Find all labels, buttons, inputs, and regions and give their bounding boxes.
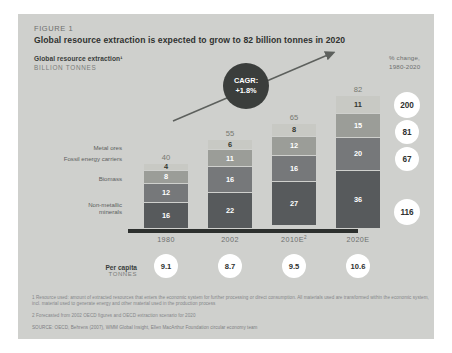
bar-2020E: 11152036 [336, 96, 380, 229]
bar-segment-biomass: 20 [336, 138, 380, 170]
bar-segment-non-metallic-minerals: 36 [336, 171, 380, 229]
x-axis-line [128, 229, 358, 233]
pct-change-circle-fossil-energy-carriers: 81 [395, 120, 419, 144]
per-capita-units: TONNES [75, 271, 137, 277]
series-label-biomass: Biomass [36, 175, 122, 182]
bar-segment-metal-ores: 11 [336, 96, 380, 114]
source-note: SOURCE: OECD, Behrens (2007), WMM Global… [32, 325, 432, 331]
bar-segment-metal-ores: 6 [208, 140, 252, 150]
bar-segment-biomass: 12 [144, 184, 188, 203]
x-tick-1980: 1980 [136, 235, 196, 244]
bar-segment-fossil-energy-carriers: 15 [336, 114, 380, 138]
per-capita-circle-1980: 9.1 [154, 254, 178, 278]
per-capita-circle-2002: 8.7 [218, 254, 242, 278]
x-tick-2002: 2002 [200, 235, 260, 244]
bar-segment-non-metallic-minerals: 27 [272, 182, 316, 226]
per-capita-label: Per capita TONNES [75, 264, 137, 277]
bar-1980: 481216 [144, 164, 188, 229]
x-tick-2020E: 2020E [328, 235, 388, 244]
per-capita-circle-2020E: 10.6 [346, 254, 370, 278]
bar-segment-biomass: 16 [272, 156, 316, 182]
bar-total-2010E: 65 [272, 113, 316, 122]
cagr-label: CAGR: [234, 76, 258, 86]
series-label-metal-ores: Metal ores [36, 144, 122, 151]
bar-2010E: 8121627 [272, 124, 316, 229]
chart-y-axis-units: BILLION TONNES [34, 64, 96, 71]
cagr-bubble: CAGR: +1.8% [223, 63, 269, 109]
pct-change-circle-metal-ores: 200 [394, 92, 420, 118]
bar-segment-non-metallic-minerals: 22 [208, 193, 252, 229]
chart-title: Global resource extraction¹ [34, 55, 122, 62]
per-capita-label-text: Per capita [75, 264, 137, 271]
bar-total-2002: 55 [208, 129, 252, 138]
footnote-1: 1 Resource used: amount of extracted res… [32, 295, 432, 307]
figure-panel: FIGURE 1 Global resource extraction is e… [18, 14, 434, 339]
pct-change-header-line1: % change, [389, 54, 452, 63]
footnote-2: 2 Forecasted from 2002 OECD figures and … [32, 313, 432, 319]
series-label-non-metallic-minerals: Non-metallicminerals [36, 201, 122, 215]
bar-segment-biomass: 16 [208, 167, 252, 193]
per-capita-circle-2010E: 9.5 [282, 254, 306, 278]
bar-2002: 6111622 [208, 140, 252, 229]
pct-change-circle-biomass: 67 [395, 147, 419, 171]
series-label-fossil-energy-carriers: Fossil energy carriers [36, 155, 122, 162]
pct-change-header-line2: 1980-2020 [389, 63, 452, 72]
bar-segment-fossil-energy-carriers: 11 [208, 150, 252, 168]
pct-change-circle-non-metallic-minerals: 116 [394, 199, 420, 225]
bar-segment-fossil-energy-carriers: 8 [144, 171, 188, 184]
bar-segment-non-metallic-minerals: 16 [144, 203, 188, 229]
bar-segment-fossil-energy-carriers: 12 [272, 137, 316, 156]
bar-total-2020E: 82 [336, 85, 380, 94]
figure-label: FIGURE 1 [34, 24, 73, 33]
cagr-value: +1.8% [235, 86, 256, 96]
figure-headline: Global resource extraction is expected t… [34, 35, 424, 45]
pct-change-header: % change, 1980-2020 [389, 54, 452, 71]
bar-total-1980: 40 [144, 153, 188, 162]
x-tick-2010E: 2010E2 [264, 235, 324, 244]
bar-segment-metal-ores: 8 [272, 124, 316, 137]
